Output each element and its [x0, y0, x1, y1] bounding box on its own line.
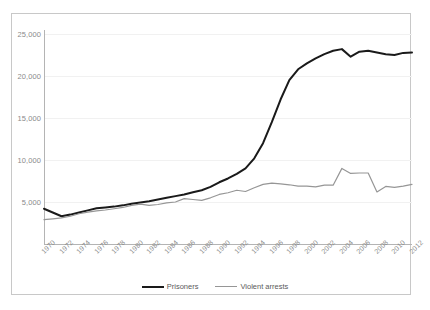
series-line: [44, 49, 412, 216]
legend-swatch-icon: [142, 286, 164, 288]
legend-swatch-icon: [215, 286, 237, 287]
chart-legend: PrisonersViolent arrests: [0, 282, 430, 291]
legend-entry[interactable]: Prisoners: [142, 282, 199, 291]
legend-entry[interactable]: Violent arrests: [215, 282, 288, 291]
legend-label: Prisoners: [167, 282, 199, 291]
legend-label: Violent arrests: [240, 282, 288, 291]
chart-plot-area: 25,00020,00015,00010,0005,000 1970197219…: [0, 0, 430, 310]
series-lines: [0, 0, 430, 310]
series-line: [44, 168, 412, 219]
